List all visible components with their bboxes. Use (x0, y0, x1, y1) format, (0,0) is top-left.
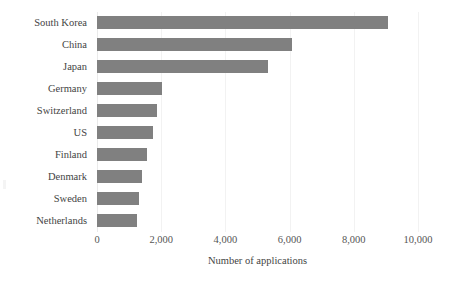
category-label: Netherlands (36, 210, 87, 232)
category-label: China (62, 34, 87, 56)
bar-row (97, 56, 418, 78)
bar (97, 82, 162, 95)
bar-chart: South KoreaChinaJapanGermanySwitzerlandU… (0, 0, 449, 281)
bar (97, 148, 147, 161)
bar (97, 104, 157, 117)
x-tick-label: 10,000 (404, 234, 433, 245)
bar-row (97, 12, 418, 34)
x-axis-title: Number of applications (97, 255, 418, 266)
category-axis: South KoreaChinaJapanGermanySwitzerlandU… (0, 12, 92, 232)
bar (97, 16, 388, 29)
bar (97, 60, 268, 73)
bar (97, 126, 153, 139)
bar-row (97, 100, 418, 122)
bar-row (97, 166, 418, 188)
x-axis-tick-labels: 02,0004,0006,0008,00010,000 (97, 234, 418, 250)
category-label: Switzerland (37, 100, 87, 122)
x-tick-label: 4,000 (214, 234, 238, 245)
bar-row (97, 78, 418, 100)
x-tick-label: 6,000 (278, 234, 302, 245)
x-tick-label: 0 (94, 234, 99, 245)
bar (97, 170, 142, 183)
category-label: Denmark (48, 166, 87, 188)
gridline-10000 (418, 12, 419, 232)
x-tick-label: 2,000 (149, 234, 173, 245)
bar-row (97, 210, 418, 232)
bar (97, 38, 292, 51)
category-label: Japan (63, 56, 87, 78)
bar-row (97, 122, 418, 144)
category-label: South Korea (34, 12, 87, 34)
bar (97, 192, 139, 205)
bar (97, 214, 137, 227)
plot-area (97, 12, 418, 232)
bar-row (97, 188, 418, 210)
bar-row (97, 144, 418, 166)
x-tick-label: 8,000 (342, 234, 366, 245)
category-label: Germany (48, 78, 87, 100)
category-label: Sweden (54, 188, 87, 210)
category-label: US (74, 122, 87, 144)
category-label: Finland (55, 144, 87, 166)
bar-row (97, 34, 418, 56)
